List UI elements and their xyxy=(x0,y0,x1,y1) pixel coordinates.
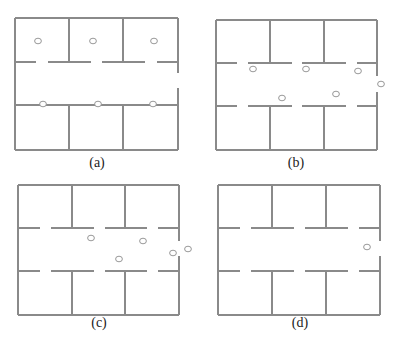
floor-plan-panels: (a)(b)(c)(d) xyxy=(0,0,397,346)
agent-marker xyxy=(185,246,192,252)
agent-marker xyxy=(35,38,42,44)
panel-caption: (d) xyxy=(292,315,309,331)
agent-marker xyxy=(333,91,340,97)
agent-marker xyxy=(88,235,95,241)
panel-c: (c) xyxy=(18,185,191,331)
panel-caption: (b) xyxy=(288,155,305,171)
agent-marker xyxy=(90,38,97,44)
panel-caption: (c) xyxy=(91,315,107,331)
agent-marker xyxy=(303,66,310,72)
agent-marker xyxy=(150,101,157,107)
panel-d: (d) xyxy=(218,185,380,331)
agent-marker xyxy=(170,250,177,256)
agent-marker xyxy=(250,66,257,72)
agent-marker xyxy=(364,244,371,250)
agent-marker xyxy=(116,256,123,262)
agent-marker xyxy=(40,101,47,107)
panel-caption: (a) xyxy=(89,155,105,171)
panel-b: (b) xyxy=(216,20,384,171)
agent-marker xyxy=(95,101,102,107)
agent-marker xyxy=(140,238,147,244)
agent-marker xyxy=(355,68,362,74)
agent-marker xyxy=(378,81,385,87)
evacuation-figure: (a)(b)(c)(d) xyxy=(0,0,397,346)
agent-marker xyxy=(151,38,158,44)
panel-a: (a) xyxy=(15,18,178,171)
agent-marker xyxy=(279,95,286,101)
